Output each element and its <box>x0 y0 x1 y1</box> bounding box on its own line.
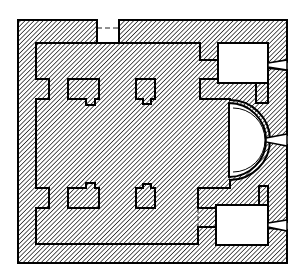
floor-plan <box>0 0 303 279</box>
north-chamber <box>218 43 268 83</box>
south-chamber-niche <box>259 186 268 205</box>
south-chamber <box>216 205 268 245</box>
north-chamber-niche <box>256 83 268 103</box>
pier-south-east <box>136 184 155 208</box>
